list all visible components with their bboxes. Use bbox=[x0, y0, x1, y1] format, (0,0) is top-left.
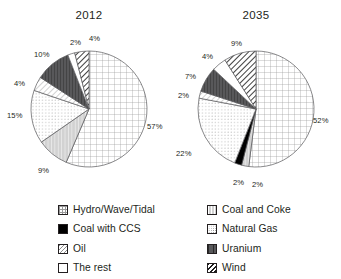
legend-item-label: Uranium bbox=[222, 244, 261, 254]
legend-item-label: Oil bbox=[73, 244, 86, 254]
legend-item-label: Natural Gas bbox=[222, 224, 278, 234]
slice-percentage-label: 22% bbox=[176, 149, 192, 158]
slice-percentage-label: 57% bbox=[147, 122, 163, 131]
slice-percentage-label: 10% bbox=[34, 50, 50, 59]
legend-item[interactable]: Hydro/Wave/Tidal bbox=[58, 200, 155, 220]
slice-percentage-label: 9% bbox=[38, 166, 49, 175]
slice-percentage-label: 4% bbox=[89, 34, 100, 43]
legend-item[interactable]: Wind bbox=[207, 259, 291, 279]
slice-percentage-label: 4% bbox=[202, 52, 213, 61]
legend-item-label: Coal with CCS bbox=[73, 224, 141, 234]
legend-item-label: The rest bbox=[73, 263, 111, 273]
slice-percentage-label: 9% bbox=[231, 39, 242, 48]
legend-item-label: Wind bbox=[222, 263, 246, 273]
legend-swatch-icon bbox=[58, 224, 68, 234]
pie-chart-figure: 2012 2035 bbox=[0, 0, 341, 279]
legend-swatch-icon bbox=[58, 244, 68, 254]
legend-item[interactable]: The rest bbox=[58, 259, 155, 279]
legend-item[interactable]: Uranium bbox=[207, 239, 291, 259]
legend-item-label: Hydro/Wave/Tidal bbox=[73, 205, 155, 215]
slice-percentage-label: 7% bbox=[185, 72, 196, 81]
legend-swatch-icon bbox=[207, 244, 217, 254]
pie-slice bbox=[249, 51, 314, 167]
slice-percentage-label: 52% bbox=[313, 116, 329, 125]
legend-swatch-icon bbox=[207, 224, 217, 234]
legend-item[interactable]: Coal with CCS bbox=[58, 220, 155, 240]
slice-percentage-label: 15% bbox=[7, 111, 23, 120]
pie-2012-slices bbox=[31, 51, 147, 167]
slice-percentage-label: 2% bbox=[178, 91, 189, 100]
slice-percentage-label: 2% bbox=[70, 38, 81, 47]
legend-swatch-icon bbox=[207, 205, 217, 215]
legend-item[interactable]: Coal and Coke bbox=[207, 200, 291, 220]
chart-legend: Hydro/Wave/TidalCoal with CCSOilThe rest… bbox=[0, 200, 341, 279]
slice-percentage-label: 4% bbox=[14, 79, 25, 88]
pie-2035-slices bbox=[198, 51, 314, 167]
slice-percentage-label: 2% bbox=[252, 180, 263, 189]
legend-item[interactable]: Natural Gas bbox=[207, 220, 291, 240]
legend-column-left: Hydro/Wave/TidalCoal with CCSOilThe rest bbox=[58, 200, 155, 278]
legend-item-label: Coal and Coke bbox=[222, 205, 291, 215]
legend-swatch-icon bbox=[58, 263, 68, 273]
legend-swatch-icon bbox=[207, 263, 217, 273]
legend-item[interactable]: Oil bbox=[58, 239, 155, 259]
slice-percentage-label: 2% bbox=[233, 178, 244, 187]
legend-swatch-icon bbox=[58, 205, 68, 215]
legend-column-right: Coal and CokeNatural GasUraniumWind bbox=[207, 200, 291, 278]
